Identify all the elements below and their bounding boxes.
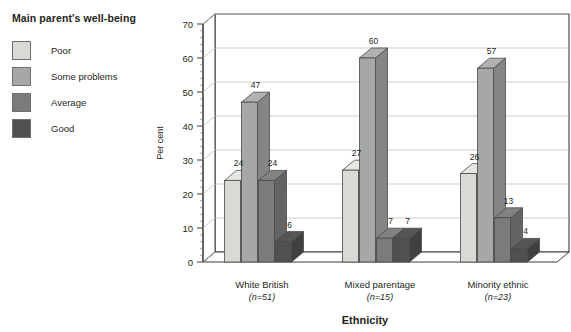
y-tick-label: 60 xyxy=(182,53,193,64)
y-tick-label: 50 xyxy=(182,87,193,98)
y-tick-label: 20 xyxy=(182,189,193,200)
bar-value-label: 24 xyxy=(268,158,278,168)
y-axis-title: Per cent xyxy=(155,126,165,160)
bar-value-label: 27 xyxy=(352,148,362,158)
y-tick-label: 40 xyxy=(182,121,193,132)
y-tick-label: 10 xyxy=(182,223,193,234)
x-category-label: Minority ethnic xyxy=(467,279,528,290)
y-tick-label: 30 xyxy=(182,155,193,166)
bar-value-label: 26 xyxy=(470,152,480,162)
x-axis-labels: White British(n=51)Mixed parentage(n=15)… xyxy=(235,279,529,302)
x-category-label: White British xyxy=(235,279,288,290)
bar-value-label: 7 xyxy=(405,216,410,226)
y-tick-label: 70 xyxy=(182,19,193,30)
y-tick-label: 0 xyxy=(188,257,193,268)
y-axis-ticks: 010203040506070 xyxy=(182,19,203,268)
bar-value-label: 60 xyxy=(369,36,379,46)
bar-chart: 010203040506070 24472462760772657134 Whi… xyxy=(0,0,571,332)
bar-value-label: 57 xyxy=(487,46,497,56)
bar-value-label: 4 xyxy=(523,226,528,236)
bar-value-label: 47 xyxy=(251,80,261,90)
bar-value-label: 24 xyxy=(234,158,244,168)
x-category-label: Mixed parentage xyxy=(345,279,416,290)
x-axis-title: Ethnicity xyxy=(342,314,389,326)
bar-value-label: 7 xyxy=(388,216,393,226)
bar xyxy=(360,48,388,262)
x-category-sublabel: (n=51) xyxy=(249,292,275,302)
bar-value-label: 6 xyxy=(287,220,292,230)
bar-value-label: 13 xyxy=(504,196,514,206)
x-category-sublabel: (n=15) xyxy=(367,292,393,302)
x-category-sublabel: (n=23) xyxy=(485,292,511,302)
